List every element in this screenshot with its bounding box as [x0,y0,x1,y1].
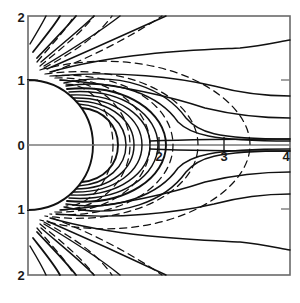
y-label-top-2: 2 [17,10,24,25]
y-label-plus-1: 1 [17,73,24,88]
y-label-bottom-2: 2 [17,268,24,283]
x-label-4: 4 [282,149,290,164]
x-label-3: 3 [220,149,227,164]
field-line-plot-svg: 2 1 0 1 2 2 3 4 [0,0,300,303]
field-line-figure: 2 1 0 1 2 2 3 4 [0,0,300,303]
x-label-2: 2 [155,149,162,164]
y-label-zero: 0 [17,138,24,153]
y-label-minus-1: 1 [17,202,24,217]
